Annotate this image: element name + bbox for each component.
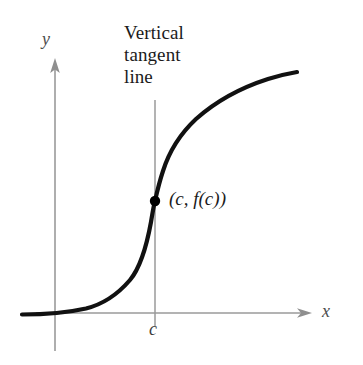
point-coordinate-label: (c, f(c)) xyxy=(169,188,226,210)
x-axis-tick-label-c: c xyxy=(149,318,157,340)
vertical-tangent-annotation: Vertical tangent line xyxy=(124,22,184,88)
x-axis-label: x xyxy=(322,300,330,322)
y-axis-label: y xyxy=(42,28,50,50)
figure-container: Vertical tangent line (c, f(c)) y x c xyxy=(0,0,363,365)
function-curve xyxy=(22,72,297,315)
y-axis xyxy=(50,58,60,351)
marked-point-dot xyxy=(150,196,160,206)
